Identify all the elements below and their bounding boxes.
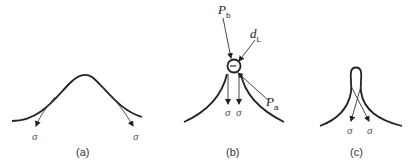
pb-label: Pb — [218, 4, 230, 21]
panel-b-caption: (b) — [226, 147, 239, 158]
diagram-canvas — [0, 0, 416, 160]
panel-b-curve — [184, 60, 284, 123]
panel-a-caption: (a) — [76, 147, 89, 158]
dl-label: dL — [250, 28, 261, 45]
panel-a-stress-arrows — [36, 84, 133, 126]
sigma-label: σ — [32, 131, 37, 142]
sigma-label: σ — [225, 107, 230, 118]
pa-label: Pa — [266, 96, 278, 113]
sigma-label: σ — [133, 131, 138, 142]
panel-c-caption: (c) — [350, 147, 363, 158]
panel-c-stress-arrows — [351, 86, 369, 121]
sigma-label: σ — [347, 125, 352, 136]
sigma-label: σ — [236, 107, 241, 118]
panel-c-curve — [320, 68, 402, 127]
sigma-label: σ — [367, 125, 372, 136]
panel-a-curve — [12, 75, 142, 121]
